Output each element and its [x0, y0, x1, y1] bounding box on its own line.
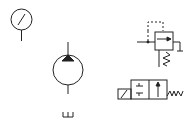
pressure-reducing-valve-icon	[137, 22, 183, 67]
tank-icon	[63, 112, 73, 117]
hydraulic-diagram	[0, 0, 189, 127]
pressure-gauge-icon	[11, 9, 32, 41]
solenoid-directional-valve-icon	[118, 80, 183, 99]
hydraulic-pump-icon	[53, 42, 83, 94]
